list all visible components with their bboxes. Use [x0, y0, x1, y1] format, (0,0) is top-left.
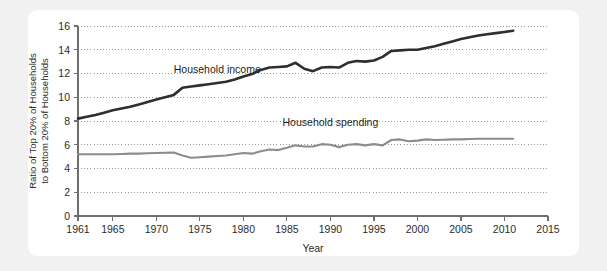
series-line-household-income [78, 31, 513, 119]
chart-container: 0246810121416196119651970197519801985199… [0, 0, 607, 271]
ytick-label: 16 [58, 20, 70, 32]
xtick-label: 1965 [101, 223, 125, 235]
xtick-label: 2015 [536, 223, 560, 235]
line-chart: 0246810121416196119651970197519801985199… [0, 0, 607, 271]
ytick-label: 0 [64, 210, 70, 222]
y-axis-title-line1: Ratio of Top 20% of Households [27, 53, 38, 189]
xtick-label: 1995 [362, 223, 386, 235]
xtick-label: 1990 [319, 223, 343, 235]
ytick-label: 8 [64, 115, 70, 127]
y-axis-title-line2: to Bottom 20% of Households [39, 58, 50, 184]
series-line-household-spending [78, 139, 513, 158]
xtick-label: 1975 [188, 223, 212, 235]
ytick-label: 12 [58, 67, 70, 79]
series-annotation-income: Household income [174, 63, 261, 75]
series-annotation-spending: Household spending [283, 116, 379, 128]
xtick-label: 1985 [275, 223, 299, 235]
xtick-label: 1980 [232, 223, 256, 235]
ytick-label: 10 [58, 91, 70, 103]
x-axis-title: Year [302, 242, 324, 254]
ytick-label: 4 [64, 162, 70, 174]
xtick-label: 1970 [145, 223, 169, 235]
ytick-label: 2 [64, 186, 70, 198]
xtick-label: 2010 [493, 223, 517, 235]
ytick-label: 14 [58, 44, 70, 56]
xtick-label: 1961 [66, 223, 90, 235]
xtick-label: 2005 [449, 223, 473, 235]
xtick-label: 2000 [406, 223, 430, 235]
ytick-label: 6 [64, 139, 70, 151]
